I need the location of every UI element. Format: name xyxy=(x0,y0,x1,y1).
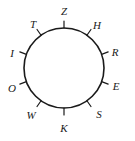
point-label-w: W xyxy=(26,110,35,121)
point-label-o: O xyxy=(8,83,16,94)
point-label-i: I xyxy=(10,48,14,59)
tick-mark-i xyxy=(20,52,27,54)
point-label-k: K xyxy=(60,123,67,134)
tick-mark-t xyxy=(37,30,41,36)
point-label-z: Z xyxy=(61,6,67,17)
tick-mark-w xyxy=(37,101,41,107)
point-label-r: R xyxy=(112,47,119,58)
tick-mark-o xyxy=(20,82,27,84)
tick-mark-s xyxy=(87,101,91,107)
point-label-h: H xyxy=(93,20,101,31)
circle-graphic xyxy=(0,0,135,141)
point-label-s: S xyxy=(96,109,102,120)
circle-diagram: ZHRESKWOIT xyxy=(0,0,135,141)
tick-mark-group xyxy=(20,21,108,115)
point-label-t: T xyxy=(30,19,36,30)
tick-mark-e xyxy=(102,82,109,84)
tick-mark-h xyxy=(87,30,91,36)
circle-outline xyxy=(24,28,104,108)
point-label-e: E xyxy=(113,81,120,92)
tick-mark-r xyxy=(102,52,109,54)
